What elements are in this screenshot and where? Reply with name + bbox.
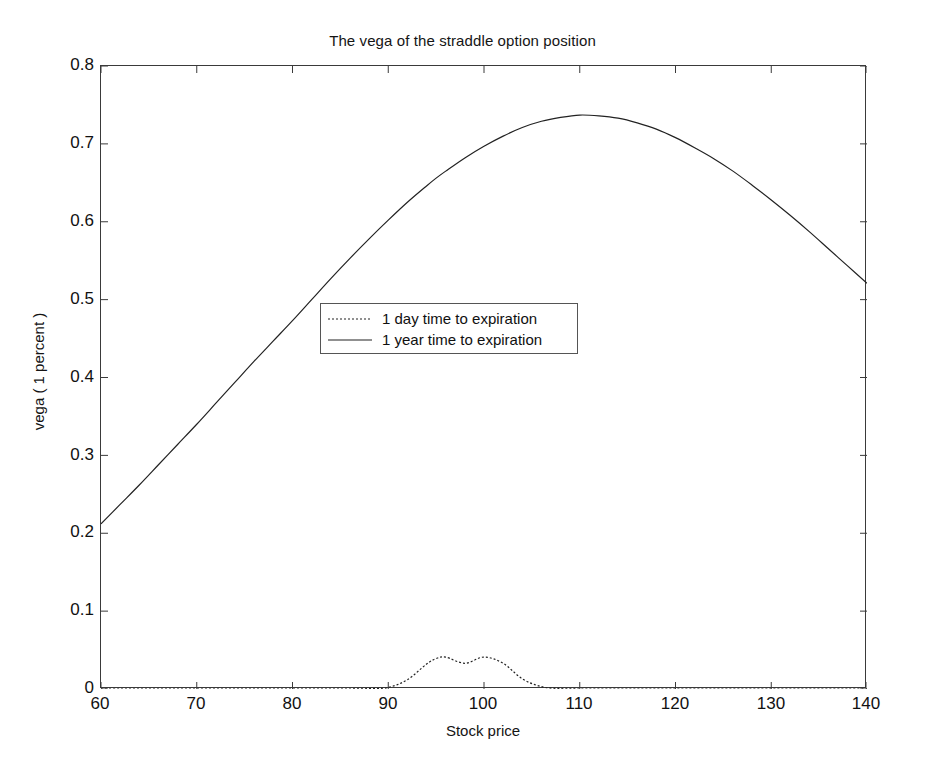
x-tick-90: 90 (353, 694, 423, 714)
y-tick-0.3: 0.3 (40, 445, 94, 465)
legend-label-1-day: 1 day time to expiration (382, 310, 537, 327)
y-tick-0.2: 0.2 (40, 522, 94, 542)
y-tick-0.5: 0.5 (40, 289, 94, 309)
x-tick-70: 70 (161, 694, 231, 714)
legend-box: 1 day time to expiration 1 year time to … (320, 303, 578, 354)
x-tick-140: 140 (831, 694, 901, 714)
y-tick-0.6: 0.6 (40, 211, 94, 231)
x-tick-130: 130 (736, 694, 806, 714)
chart-title: The vega of the straddle option position (0, 32, 925, 49)
plot-area (100, 65, 866, 688)
y-tick-0.4: 0.4 (40, 367, 94, 387)
x-tick-100: 100 (448, 694, 518, 714)
legend-label-1-year: 1 year time to expiration (382, 331, 542, 348)
x-tick-80: 80 (257, 694, 327, 714)
plot-svg (101, 66, 867, 689)
figure-canvas: The vega of the straddle option position… (0, 0, 925, 773)
x-axis-label: Stock price (100, 722, 866, 739)
x-tick-110: 110 (544, 694, 614, 714)
legend-solid-line-icon (327, 335, 373, 345)
legend-dotted-line-icon (327, 314, 373, 324)
x-tick-60: 60 (65, 694, 135, 714)
legend-item-1-year: 1 year time to expiration (327, 329, 571, 350)
y-axis-label: vega ( 1 percent ) (30, 262, 47, 482)
y-tick-0.8: 0.8 (40, 55, 94, 75)
legend-item-1-day: 1 day time to expiration (327, 308, 571, 329)
x-tick-120: 120 (640, 694, 710, 714)
axis-ticks (101, 66, 867, 689)
y-tick-0.1: 0.1 (40, 600, 94, 620)
y-tick-0.7: 0.7 (40, 133, 94, 153)
